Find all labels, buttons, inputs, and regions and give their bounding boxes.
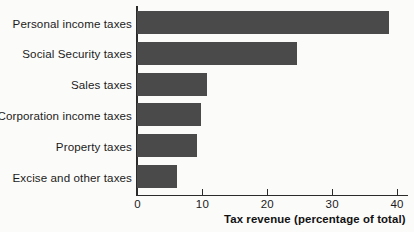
bar — [137, 103, 201, 126]
x-tick-mark — [267, 189, 268, 196]
x-tick-label: 30 — [326, 198, 339, 211]
x-tick-label: 10 — [196, 198, 209, 211]
x-axis-title: Tax revenue (percentage of total) — [224, 213, 406, 225]
x-tick-mark — [332, 189, 333, 196]
category-label: Sales taxes — [71, 78, 132, 91]
category-label: Social Security taxes — [22, 47, 132, 60]
x-tick-mark — [137, 189, 138, 196]
x-tick-label: 20 — [261, 198, 274, 211]
category-label: Personal income taxes — [13, 16, 132, 29]
bar — [137, 73, 207, 96]
x-tick-label: 40 — [390, 198, 403, 211]
bar — [137, 11, 389, 34]
plot-area: Personal income taxesSocial Security tax… — [0, 0, 414, 232]
bar — [137, 42, 297, 65]
x-tick-label: 0 — [134, 198, 141, 211]
bar-chart: Personal income taxesSocial Security tax… — [0, 0, 414, 232]
category-label: Excise and other taxes — [13, 170, 133, 183]
x-tick-mark — [397, 189, 398, 196]
x-tick-mark — [202, 189, 203, 196]
category-label: Property taxes — [56, 139, 132, 152]
x-axis-line — [136, 195, 408, 196]
bar — [137, 165, 177, 188]
category-label: Corporation income taxes — [0, 108, 132, 121]
bar — [137, 134, 197, 157]
